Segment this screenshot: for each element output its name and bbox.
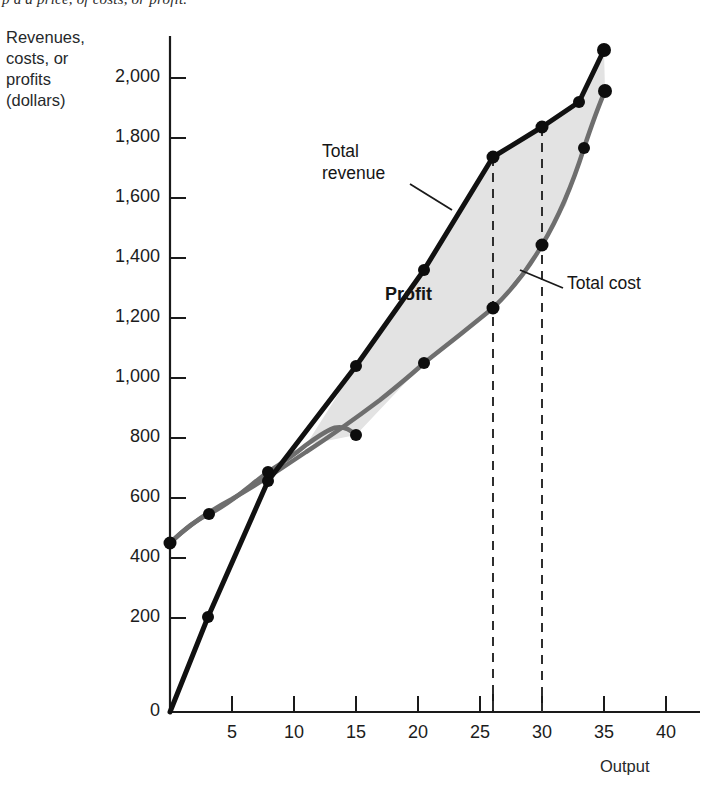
total-revenue-label: Total revenue <box>322 140 385 184</box>
profit-label: Profit <box>385 283 432 305</box>
total-cost-curve <box>170 427 356 543</box>
plot-area <box>0 0 713 793</box>
profit-shaded-region <box>306 50 605 445</box>
chart-figure: p d a price, of costs, or profit. Revenu… <box>0 0 713 793</box>
total-cost-label: Total cost <box>567 272 641 294</box>
x-axis-ticks <box>232 694 666 712</box>
leader-line-total-revenue <box>410 184 452 210</box>
